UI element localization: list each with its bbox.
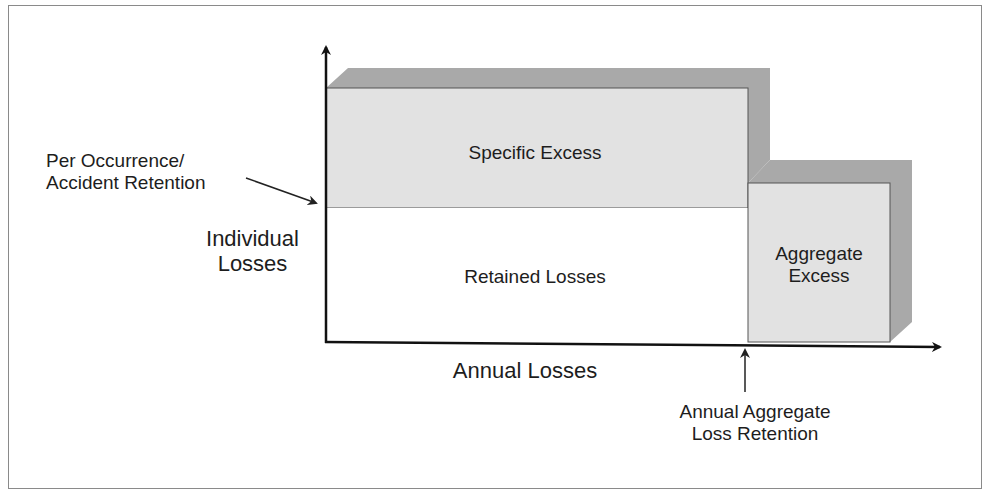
per-occurrence-arrow xyxy=(246,178,316,203)
annual-aggregate-line1: Annual Aggregate xyxy=(660,401,850,423)
per-occurrence-line1: Per Occurrence/ xyxy=(46,150,206,172)
per-occurrence-line2: Accident Retention xyxy=(46,172,206,194)
annual-aggregate-line2: Loss Retention xyxy=(660,423,850,445)
y-axis-label-line2: Losses xyxy=(195,251,310,276)
specific-excess-label: Specific Excess xyxy=(430,142,640,164)
per-occurrence-label: Per Occurrence/ Accident Retention xyxy=(46,150,206,194)
y-axis-label: Individual Losses xyxy=(195,226,310,277)
y-axis-label-line1: Individual xyxy=(195,226,310,251)
retained-losses-label: Retained Losses xyxy=(430,266,640,288)
aggregate-excess-line2: Excess xyxy=(748,265,890,287)
x-axis-label: Annual Losses xyxy=(420,358,630,383)
annual-aggregate-label: Annual Aggregate Loss Retention xyxy=(660,401,850,445)
aggregate-excess-line1: Aggregate xyxy=(748,243,890,265)
aggregate-excess-label: Aggregate Excess xyxy=(748,243,890,287)
x-axis xyxy=(325,342,940,347)
